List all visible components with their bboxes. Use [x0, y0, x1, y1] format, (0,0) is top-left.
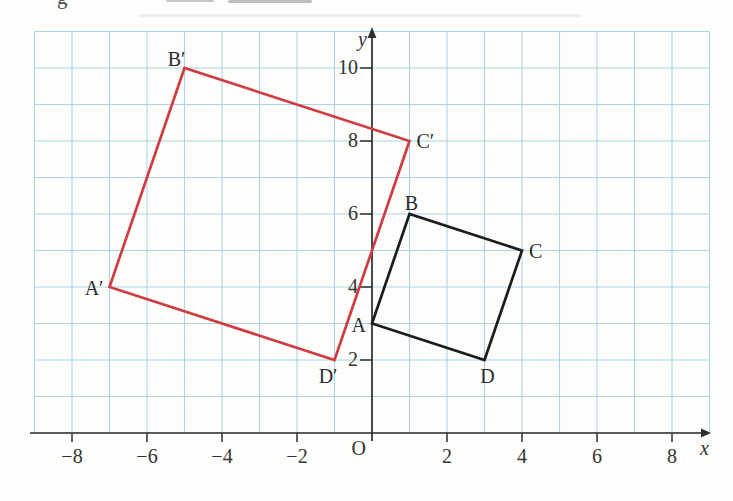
figure-page: g −8−6−4−22468x246810yOABCDA′B′C′D′ — [0, 0, 733, 501]
x-tick-label: −2 — [286, 445, 307, 467]
x-tick-label: 2 — [442, 445, 452, 467]
y-axis-arrowhead-icon — [368, 27, 377, 38]
x-axis-label: x — [699, 437, 709, 459]
vertex-label-a-prime: A′ — [85, 277, 104, 299]
x-tick-label: −8 — [61, 445, 82, 467]
cropped-text-smudge — [228, 0, 312, 3]
cropped-letter: g — [57, 0, 68, 10]
y-axis-label: y — [356, 28, 367, 51]
origin-label: O — [352, 437, 366, 459]
cropped-text-fragment: g — [0, 0, 733, 20]
x-tick-label: 8 — [667, 445, 677, 467]
vertex-label-c: C — [529, 240, 542, 262]
y-tick-label: 8 — [348, 129, 358, 151]
cropped-text-smudge — [166, 0, 214, 2]
x-tick-label: −4 — [211, 445, 232, 467]
y-tick-label: 10 — [338, 56, 358, 78]
x-tick-label: 6 — [592, 445, 602, 467]
coordinate-plane-svg: −8−6−4−22468x246810yOABCDA′B′C′D′ — [0, 0, 733, 501]
cropped-text-smudge — [140, 14, 580, 17]
vertex-label-d-prime: D′ — [319, 365, 338, 387]
y-axis: 246810 — [338, 27, 376, 441]
x-axis: −8−6−4−22468 — [30, 429, 711, 467]
vertex-label-c-prime: C′ — [417, 130, 435, 152]
vertex-label-b: B — [405, 192, 418, 214]
vertex-label-b-prime: B′ — [168, 48, 186, 70]
y-tick-label: 6 — [348, 202, 358, 224]
x-tick-label: 4 — [517, 445, 527, 467]
coordinate-plane: −8−6−4−22468x246810yOABCDA′B′C′D′ — [0, 0, 733, 501]
x-tick-label: −6 — [136, 445, 157, 467]
y-tick-label: 2 — [348, 348, 358, 370]
vertex-label-d: D — [480, 365, 494, 387]
vertex-label-a: A — [352, 314, 367, 336]
